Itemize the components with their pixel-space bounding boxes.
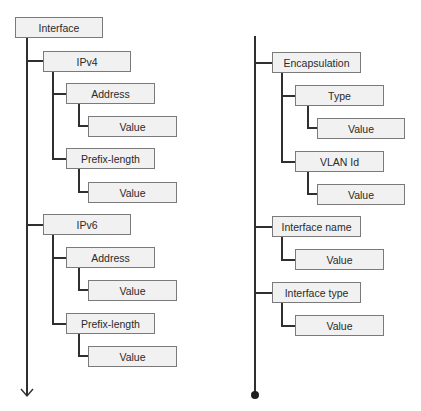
- node-ipv4-prefix-value: Value: [88, 182, 177, 203]
- node-label: Address: [91, 252, 130, 264]
- node-encap-vlan-value: Value: [317, 184, 405, 205]
- connector-v: [307, 172, 309, 194]
- connector-v: [281, 303, 283, 326]
- connector-v: [52, 235, 54, 324]
- connector-h: [307, 127, 317, 129]
- node-ipv4-address-value: Value: [88, 116, 177, 137]
- interface-tree-diagram: Interface IPv4 Address Value Prefix-leng…: [0, 0, 421, 411]
- node-encap-type: Type: [295, 85, 384, 106]
- node-ipv4-prefix-length: Prefix-length: [66, 148, 155, 169]
- connector-v: [78, 104, 80, 126]
- connector-v: [78, 169, 80, 192]
- node-ipv6-address: Address: [66, 247, 155, 268]
- node-label: Interface type: [285, 287, 349, 299]
- node-interface-name-value: Value: [295, 249, 384, 270]
- node-ipv6-prefix-value: Value: [88, 346, 177, 367]
- node-label: IPv4: [76, 56, 97, 68]
- connector-h: [307, 193, 317, 195]
- node-label: IPv6: [76, 219, 97, 231]
- connector-h: [26, 60, 43, 62]
- arrow-down-icon: [20, 388, 34, 398]
- connector-v: [78, 268, 80, 290]
- node-ipv6-prefix-length: Prefix-length: [66, 313, 155, 334]
- connector-h: [78, 125, 88, 127]
- node-label: Address: [91, 88, 130, 100]
- node-label: Prefix-length: [81, 318, 140, 330]
- connector-h: [26, 224, 43, 226]
- node-interface-type-value: Value: [295, 315, 384, 336]
- node-label: Interface name: [281, 221, 351, 233]
- node-label: VLAN Id: [320, 156, 359, 168]
- node-label: Encapsulation: [284, 57, 350, 69]
- connector-h: [78, 289, 88, 291]
- node-interface-name: Interface name: [272, 216, 361, 237]
- connector-h: [52, 257, 66, 259]
- connector-h: [281, 325, 295, 327]
- node-label: Value: [119, 285, 145, 297]
- node-interface-type: Interface type: [272, 282, 361, 303]
- node-label: Value: [348, 123, 374, 135]
- node-label: Value: [119, 121, 145, 133]
- node-label: Prefix-length: [81, 153, 140, 165]
- node-label: Type: [328, 90, 351, 102]
- end-dot-icon: [250, 390, 260, 400]
- connector-v: [307, 106, 309, 128]
- node-encap-vlan-id: VLAN Id: [295, 151, 384, 172]
- connector-v: [281, 237, 283, 260]
- connector-h: [52, 323, 66, 325]
- node-label: Value: [348, 189, 374, 201]
- node-label: Value: [326, 320, 352, 332]
- connector-v: [78, 334, 80, 356]
- connector-h: [78, 191, 88, 193]
- connector-h: [254, 226, 272, 228]
- left-trunk-line: [26, 37, 28, 395]
- right-trunk-line: [254, 36, 256, 394]
- node-label: Interface: [39, 22, 80, 34]
- node-ipv6-address-value: Value: [88, 280, 177, 301]
- connector-v: [52, 72, 54, 159]
- connector-h: [52, 93, 66, 95]
- connector-v: [281, 73, 283, 162]
- connector-h: [254, 62, 272, 64]
- connector-h: [281, 95, 295, 97]
- node-ipv4-address: Address: [66, 83, 155, 104]
- node-encap-type-value: Value: [317, 118, 405, 139]
- node-label: Value: [326, 254, 352, 266]
- node-label: Value: [119, 187, 145, 199]
- connector-h: [52, 158, 66, 160]
- node-interface: Interface: [15, 17, 103, 38]
- node-ipv4: IPv4: [43, 51, 131, 72]
- connector-h: [281, 259, 295, 261]
- node-ipv6: IPv6: [43, 214, 131, 235]
- connector-h: [281, 161, 295, 163]
- node-label: Value: [119, 351, 145, 363]
- connector-h: [78, 355, 88, 357]
- node-encapsulation: Encapsulation: [272, 52, 361, 73]
- connector-h: [254, 292, 272, 294]
